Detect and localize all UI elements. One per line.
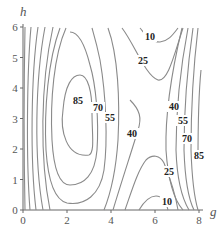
y-tick-label: 1	[12, 174, 18, 186]
contour-label: 10	[145, 31, 155, 42]
y-tick-label: 2	[12, 143, 18, 155]
contour-label: 40	[127, 128, 137, 139]
y-tick-label: 6	[12, 21, 18, 33]
contour-label: 25	[138, 55, 148, 66]
x-tick-label: 4	[108, 214, 114, 226]
contour-label: 55	[178, 115, 188, 126]
x-tick-label: 0	[20, 214, 26, 226]
x-tick-label: 2	[64, 214, 70, 226]
contour-label: 55	[105, 112, 115, 123]
y-axis-label: h	[20, 4, 27, 19]
bottom-contours	[113, 100, 178, 210]
y-ticks: 0 1 2 3 4 5 6	[12, 21, 23, 216]
contour-label: 70	[93, 102, 103, 113]
contour-label: 70	[182, 133, 192, 144]
x-tick-label: 6	[152, 214, 158, 226]
contour-label: 85	[73, 95, 83, 106]
contour-label: 85	[194, 150, 204, 161]
x-ticks: 0 2 4 6 8	[20, 210, 202, 226]
x-axis-label: g	[210, 204, 217, 219]
y-tick-label: 3	[12, 113, 18, 125]
y-tick-label: 4	[12, 82, 18, 94]
contour-label: 10	[162, 196, 172, 207]
contour-label: 40	[169, 101, 179, 112]
left-contours	[24, 27, 53, 210]
y-tick-label: 5	[12, 52, 18, 64]
y-tick-label: 0	[12, 204, 18, 216]
contour-label: 25	[164, 166, 174, 177]
x-tick-label: 8	[196, 214, 202, 226]
contour-plot: 0 2 4 6 8 0 1 2 3 4 5 6 g h	[0, 0, 223, 231]
